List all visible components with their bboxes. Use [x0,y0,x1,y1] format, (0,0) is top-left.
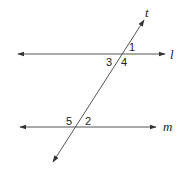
geometry-diagram: t l m 1 3 4 5 2 [0,0,190,169]
label-l: l [170,47,174,62]
label-t: t [145,5,149,20]
label-m: m [163,119,172,134]
angle-4-label: 4 [121,56,127,68]
angle-2-label: 2 [85,115,91,127]
angle-3-label: 3 [106,56,112,68]
angle-5-label: 5 [66,115,72,127]
angle-1-label: 1 [129,41,135,53]
